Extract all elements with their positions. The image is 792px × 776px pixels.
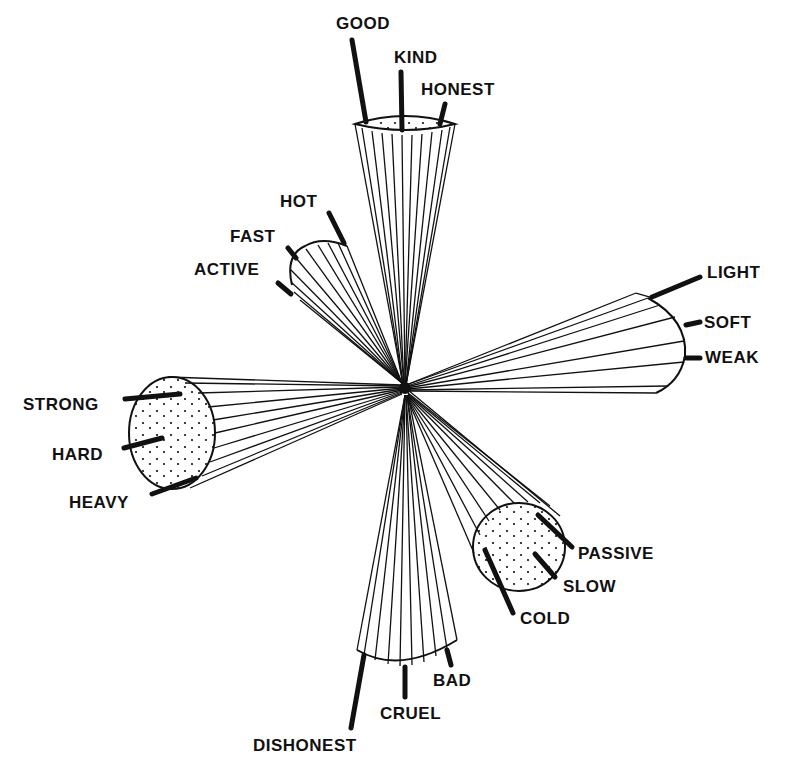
label-hard: HARD (52, 446, 103, 463)
label-passive: PASSIVE (578, 545, 654, 562)
label-strong: STRONG (23, 396, 99, 413)
label-slow: SLOW (563, 578, 616, 595)
label-kind: KIND (394, 49, 438, 66)
label-fast: FAST (230, 228, 275, 245)
label-weak: WEAK (705, 349, 759, 366)
label-active: ACTIVE (194, 261, 259, 278)
label-light: LIGHT (707, 264, 761, 281)
center-hub (399, 382, 411, 394)
cone-diagram-graphic (0, 0, 792, 776)
label-honest: HONEST (421, 81, 495, 98)
label-soft: SOFT (704, 314, 751, 331)
label-cold: COLD (520, 610, 570, 627)
label-good: GOOD (336, 15, 390, 32)
semantic-differential-cone-diagram: GOOD KIND HONEST HOT FAST ACTIVE LIGHT S… (0, 0, 792, 776)
label-cruel: CRUEL (380, 705, 441, 722)
cone-bad (357, 395, 457, 666)
cone-active (290, 241, 402, 383)
cone-light (406, 293, 685, 393)
label-hot: HOT (280, 193, 317, 210)
label-dishonest: DISHONEST (253, 737, 357, 754)
label-bad: BAD (433, 672, 471, 689)
label-heavy: HEAVY (69, 494, 129, 511)
